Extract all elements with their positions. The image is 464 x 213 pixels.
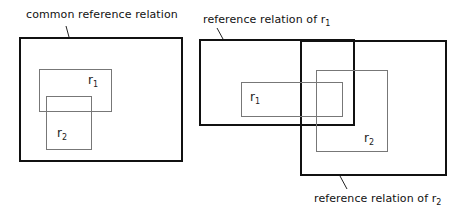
r1-label-pointer (217, 28, 223, 39)
r2-label-pointer (340, 176, 347, 189)
common-label-pointer (66, 26, 69, 37)
pointer-lines (0, 0, 464, 213)
